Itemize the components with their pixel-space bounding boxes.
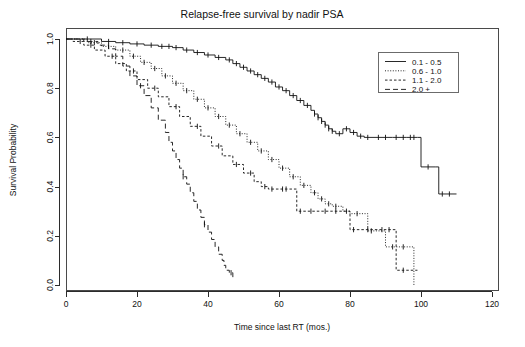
y-axis: 0.00.20.40.60.81.0 bbox=[45, 33, 60, 291]
y-tick-label: 0.8 bbox=[45, 82, 55, 94]
x-axis-title: Time since last RT (mos.) bbox=[234, 322, 330, 332]
x-tick-label: 80 bbox=[345, 299, 355, 309]
plot-canvas: Relapse-free survival by nadir PSA 02040… bbox=[0, 0, 525, 347]
survival-chart-figure: Relapse-free survival by nadir PSA 02040… bbox=[0, 0, 525, 347]
y-tick-label: 0.2 bbox=[45, 230, 55, 242]
y-tick-label: 1.0 bbox=[45, 33, 55, 45]
y-axis-title: Survival Probability bbox=[8, 123, 18, 196]
legend: 0.1 - 0.50.6 - 1.01.1 - 2.02.0 + bbox=[379, 53, 459, 95]
km-curve-series-1 bbox=[66, 39, 414, 285]
x-tick-label: 0 bbox=[64, 299, 69, 309]
x-tick-label: 120 bbox=[485, 299, 499, 309]
chart-title: Relapse-free survival by nadir PSA bbox=[181, 8, 344, 20]
y-tick-label: 0.4 bbox=[45, 180, 55, 192]
x-tick-label: 60 bbox=[274, 299, 284, 309]
x-tick-label: 40 bbox=[203, 299, 213, 309]
legend-label-3: 2.0 + bbox=[412, 85, 430, 94]
y-tick-label: 0.6 bbox=[45, 131, 55, 143]
x-tick-label: 20 bbox=[132, 299, 142, 309]
km-curve-series-2 bbox=[66, 39, 417, 270]
x-tick-label: 100 bbox=[414, 299, 428, 309]
y-tick-label: 0.0 bbox=[45, 279, 55, 291]
km-curve-series-3 bbox=[66, 39, 233, 280]
legend-label-2: 1.1 - 2.0 bbox=[412, 76, 442, 85]
legend-label-1: 0.6 - 1.0 bbox=[412, 67, 442, 76]
legend-label-0: 0.1 - 0.5 bbox=[412, 58, 442, 67]
x-axis: 020406080100120 bbox=[64, 292, 500, 310]
